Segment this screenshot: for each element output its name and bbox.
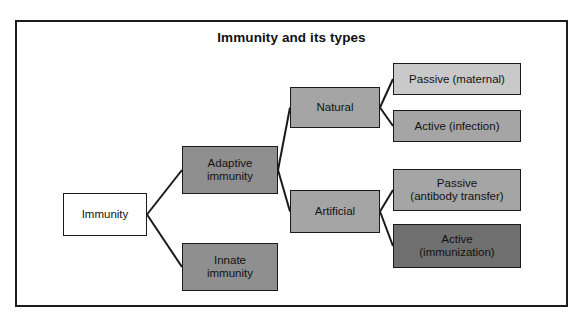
edge-natural-to-passive-maternal xyxy=(380,79,393,108)
edge-adaptive-to-artificial xyxy=(278,170,290,212)
node-innate: Innate immunity xyxy=(182,243,278,291)
node-artificial: Artificial xyxy=(290,190,380,233)
node-label: Adaptive immunity xyxy=(207,157,253,183)
node-immunity: Immunity xyxy=(63,193,147,236)
node-label: Passive (maternal) xyxy=(409,73,505,86)
node-active-immunization: Active (immunization) xyxy=(393,224,521,268)
node-adaptive: Adaptive immunity xyxy=(182,146,278,194)
node-active-infection: Active (infection) xyxy=(393,110,521,142)
edge-artificial-to-active-immunization xyxy=(380,212,393,247)
node-natural: Natural xyxy=(290,87,380,128)
edge-artificial-to-passive-antibody-transfer xyxy=(380,190,393,212)
node-label: Natural xyxy=(316,101,353,114)
edge-natural-to-active-infection xyxy=(380,108,393,127)
node-label: Active (immunization) xyxy=(419,233,494,259)
connector-lines xyxy=(0,0,584,324)
edge-adaptive-to-natural xyxy=(278,108,290,171)
node-label: Active (infection) xyxy=(414,120,499,133)
page-title: Immunity and its types xyxy=(15,30,568,45)
node-passive-maternal: Passive (maternal) xyxy=(393,63,521,95)
node-label: Innate immunity xyxy=(207,254,253,280)
node-label: Immunity xyxy=(82,208,129,221)
node-label: Passive (antibody transfer) xyxy=(410,177,503,203)
diagram-canvas: Immunity and its types ImmunityAdaptive … xyxy=(0,0,584,324)
node-label: Artificial xyxy=(315,205,355,218)
edge-immunity-to-adaptive xyxy=(147,170,182,215)
node-passive-antibody-transfer: Passive (antibody transfer) xyxy=(393,169,521,211)
edge-immunity-to-innate xyxy=(147,215,182,268)
